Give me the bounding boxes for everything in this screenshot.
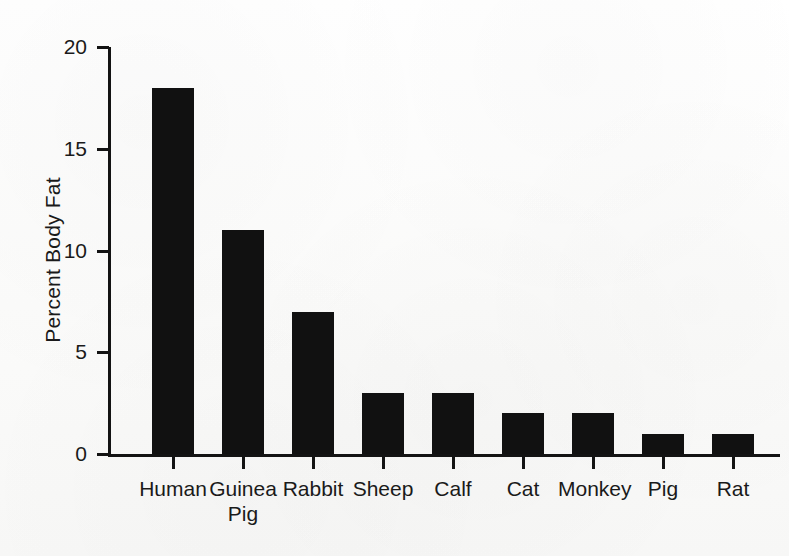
x-axis-tick-label: Human: [138, 477, 208, 502]
y-axis-tick-label: 0: [43, 443, 87, 464]
x-axis-tick-label: Pig: [628, 477, 698, 502]
x-axis-tick-mark: [522, 457, 525, 469]
plot-area: 05101520 HumanGuinea PigRabbitSheepCalfC…: [0, 0, 789, 556]
bar: [222, 230, 264, 454]
x-axis-tick-label: Cat: [488, 477, 558, 502]
x-axis-line: [108, 454, 780, 457]
bar: [292, 312, 334, 454]
x-axis-tick-mark: [592, 457, 595, 469]
bar: [642, 434, 684, 454]
x-axis-tick-mark: [312, 457, 315, 469]
y-axis-tick-mark: [97, 351, 109, 354]
y-axis-tick-mark: [97, 453, 109, 456]
x-axis-tick-mark: [382, 457, 385, 469]
y-axis-tick-label: 20: [43, 36, 87, 57]
bar: [572, 413, 614, 454]
y-axis-title: Percent Body Fat: [41, 145, 65, 375]
x-axis-tick-label: Guinea Pig: [208, 477, 278, 527]
x-axis-tick-mark: [662, 457, 665, 469]
y-axis-tick-mark: [97, 250, 109, 253]
bar: [362, 393, 404, 454]
x-axis-tick-mark: [732, 457, 735, 469]
bar: [502, 413, 544, 454]
y-axis-tick-mark: [97, 148, 109, 151]
x-axis-tick-label: Rabbit: [278, 477, 348, 502]
y-axis-tick-mark: [97, 46, 109, 49]
x-axis-tick-mark: [452, 457, 455, 469]
bar-chart-figure: 05101520 HumanGuinea PigRabbitSheepCalfC…: [0, 0, 789, 556]
x-axis-tick-label: Sheep: [348, 477, 418, 502]
x-axis-tick-label: Rat: [698, 477, 768, 502]
x-axis-tick-label: Monkey: [558, 477, 628, 502]
bar: [712, 434, 754, 454]
x-axis-tick-label: Calf: [418, 477, 488, 502]
x-axis-tick-mark: [172, 457, 175, 469]
bar: [432, 393, 474, 454]
bar: [152, 88, 194, 454]
x-axis-tick-mark: [242, 457, 245, 469]
